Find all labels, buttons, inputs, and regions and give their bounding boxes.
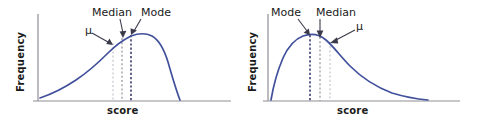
left-x-axis-label: score: [107, 106, 138, 116]
right-mode-label: Mode: [271, 7, 301, 18]
left-mode-label: Mode: [141, 7, 171, 18]
right-mean-arrow-shaft: [336, 30, 355, 40]
right-y-axis-label: Frequency: [248, 32, 258, 92]
right-median-label: Median: [316, 7, 356, 18]
left-mean-label: μ: [85, 25, 92, 36]
right-x-axis-label: score: [337, 106, 368, 116]
right-mean-label: μ: [356, 21, 363, 32]
left-median-arrow-shaft: [120, 19, 123, 33]
right-distribution-curve: [271, 34, 428, 100]
left-median-arrow-head: [120, 31, 127, 38]
left-median-label: Median: [92, 7, 132, 18]
left-skewed-chart-panel: Median Mode μ Frequency score: [0, 0, 242, 124]
right-mode-arrow-shaft: [298, 19, 307, 31]
right-skewed-chart-panel: Mode Median μ Frequency score: [242, 0, 484, 124]
left-mean-arrow-shaft: [92, 33, 108, 42]
left-mode-arrow-shaft: [134, 19, 141, 31]
right-mean-arrow-head: [330, 37, 338, 43]
left-y-axis-label: Frequency: [16, 32, 26, 92]
skewness-figure: Median Mode μ Frequency score: [0, 0, 484, 124]
